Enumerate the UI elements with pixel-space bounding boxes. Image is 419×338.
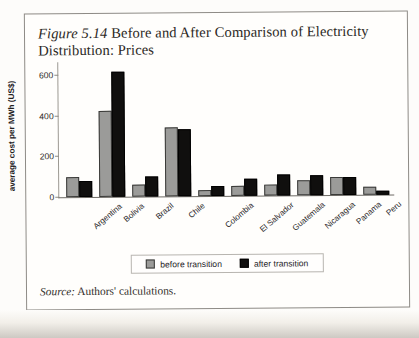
y-tick-mark-0 — [55, 197, 59, 198]
x-axis-label-panama: Panama — [354, 200, 383, 226]
chart-legend: before transition after transition — [131, 253, 324, 274]
bar-series-container — [57, 63, 393, 66]
source-note: Source: Authors' calculations. — [40, 284, 176, 297]
x-axis-label-el-salvador: El Salvador — [258, 200, 295, 234]
figure-content: Figure 5.14 Before and After Comparison … — [24, 10, 410, 310]
bar-group — [362, 63, 389, 196]
y-tick-label-200: 200 — [30, 152, 54, 162]
x-axis-label-guatemala: Guatemala — [290, 200, 326, 233]
bar-after — [111, 72, 125, 197]
y-tick-label-0: 0 — [30, 192, 54, 202]
page-edge-shadow — [0, 310, 419, 338]
bar-group — [329, 63, 356, 196]
source-label: Source: — [40, 285, 75, 297]
figure-title: Figure 5.14 Before and After Comparison … — [38, 23, 394, 60]
bar-group — [263, 63, 290, 196]
bar-group — [164, 64, 191, 197]
figure-number: Figure 5.14 — [38, 25, 108, 42]
y-axis-line — [57, 62, 59, 198]
bar-after — [277, 174, 290, 195]
bar-before — [66, 177, 79, 197]
x-axis-label-chile: Chile — [186, 201, 206, 220]
bar-after — [376, 191, 389, 195]
bar-before — [297, 180, 310, 195]
bar-before — [198, 190, 211, 196]
legend-entry-before: before transition — [146, 258, 222, 269]
bar-before — [264, 184, 277, 195]
bar-before — [164, 127, 178, 196]
bar-after — [211, 186, 224, 196]
chart-plot-area: average cost per MWh (US$) 0200400600 Ar… — [57, 63, 394, 199]
bar-before — [363, 187, 376, 195]
bar-before — [231, 186, 244, 196]
bar-group — [296, 63, 323, 196]
x-axis-label-bolivia: Bolivia — [122, 202, 146, 224]
source-text: Authors' calculations. — [75, 284, 176, 297]
bar-group — [197, 64, 224, 197]
x-axis-label-peru: Peru — [384, 200, 403, 218]
x-axis-label-brazil: Brazil — [154, 201, 175, 221]
bar-after — [310, 175, 323, 195]
x-axis-label-nicaragua: Nicaragua — [323, 200, 357, 231]
bar-after — [79, 181, 92, 197]
bar-before — [330, 177, 343, 195]
bar-after — [343, 177, 356, 195]
legend-label-after: after transition — [254, 258, 309, 268]
y-tick-label-400: 400 — [30, 111, 54, 121]
bar-group — [98, 65, 125, 198]
y-tick-mark-400 — [55, 116, 59, 117]
scanned-page: Figure 5.14 Before and After Comparison … — [0, 0, 419, 338]
y-axis-title: average cost per MWh (US$) — [7, 70, 17, 202]
x-axis-label-argentina: Argentina — [91, 202, 123, 231]
bar-before — [132, 184, 145, 196]
y-tick-label-600: 600 — [29, 70, 53, 80]
bar-after — [244, 178, 257, 195]
legend-entry-after: after transition — [240, 258, 309, 269]
y-tick-mark-600 — [54, 75, 58, 76]
legend-swatch-after-icon — [240, 259, 249, 268]
x-axis-label-colombia: Colombia — [223, 201, 255, 230]
bar-after — [145, 176, 158, 196]
bar-before — [98, 111, 112, 197]
legend-swatch-before-icon — [146, 259, 155, 268]
legend-label-before: before transition — [160, 258, 222, 268]
bar-group — [230, 64, 257, 197]
y-tick-mark-200 — [55, 156, 59, 157]
bar-after — [177, 129, 191, 196]
bar-group — [131, 64, 158, 197]
bar-group — [65, 65, 92, 198]
